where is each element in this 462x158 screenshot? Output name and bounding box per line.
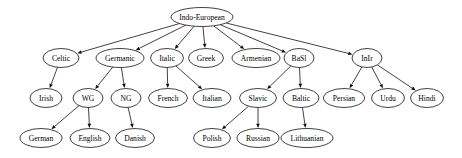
node-ellipse xyxy=(283,89,319,108)
edge-line xyxy=(214,26,241,47)
node-ellipse xyxy=(281,129,333,148)
tree-edge xyxy=(121,67,125,87)
edge-line xyxy=(121,67,123,83)
node-ellipse xyxy=(324,89,365,108)
node-layer: Indo-EuropeanCelticGermanicItalicGreekAr… xyxy=(20,8,444,148)
node-ellipse xyxy=(96,49,144,68)
tree-node-persian[interactable]: Persian xyxy=(324,89,365,108)
tree-node-ng[interactable]: NG xyxy=(111,89,141,108)
arrowhead-icon xyxy=(77,50,82,53)
edge-layer xyxy=(49,23,415,129)
tree-edge xyxy=(214,26,245,49)
tree-edge xyxy=(166,68,170,88)
tree-edge xyxy=(95,67,113,89)
edge-line xyxy=(225,106,249,126)
tree-node-russian[interactable]: Russian xyxy=(237,129,279,148)
edge-line xyxy=(176,66,199,87)
node-ellipse xyxy=(352,49,382,68)
tree-node-english[interactable]: English xyxy=(70,129,110,148)
edge-line xyxy=(177,26,194,46)
tree-edge xyxy=(377,65,415,91)
node-ellipse xyxy=(116,129,155,148)
arrowhead-icon xyxy=(256,124,260,128)
node-ellipse xyxy=(151,49,184,68)
edge-line xyxy=(88,108,89,124)
arrowhead-icon xyxy=(411,87,415,91)
arrowhead-icon xyxy=(130,123,134,127)
tree-edge xyxy=(128,107,133,128)
tree-node-hindi[interactable]: Hindi xyxy=(411,89,444,108)
node-ellipse xyxy=(171,8,233,27)
tree-edge xyxy=(203,27,207,48)
tree-node-german[interactable]: German xyxy=(20,129,62,148)
tree-edge xyxy=(87,108,91,128)
tree-node-baltic[interactable]: Baltic xyxy=(283,89,319,108)
edge-line xyxy=(51,67,57,84)
edge-line xyxy=(203,27,205,44)
node-ellipse xyxy=(111,89,141,108)
tree-node-wg[interactable]: WG xyxy=(73,89,103,108)
tree-node-indo-european[interactable]: Indo-European xyxy=(171,8,233,27)
tree-node-italic[interactable]: Italic xyxy=(151,49,184,68)
tree-node-armenian[interactable]: Armenian xyxy=(232,49,280,68)
tree-node-greek[interactable]: Greek xyxy=(189,49,224,68)
node-ellipse xyxy=(73,89,103,108)
node-ellipse xyxy=(237,129,279,148)
edge-line xyxy=(128,107,132,123)
node-ellipse xyxy=(193,89,231,108)
graph-canvas: Indo-EuropeanCelticGermanicItalicGreekAr… xyxy=(0,0,462,158)
tree-node-lithuanian[interactable]: Lithuanian xyxy=(281,129,333,148)
node-ellipse xyxy=(240,89,277,108)
edge-line xyxy=(270,66,291,86)
tree-edge xyxy=(350,67,362,88)
tree-edge xyxy=(222,106,249,129)
arrowhead-icon xyxy=(240,45,244,49)
tree-node-slavic[interactable]: Slavic xyxy=(240,89,277,108)
tree-node-italian[interactable]: Italian xyxy=(193,89,231,108)
edge-line xyxy=(302,107,304,123)
edge-line xyxy=(55,106,79,127)
arrowhead-icon xyxy=(298,84,302,88)
node-ellipse xyxy=(149,89,188,108)
arrowhead-icon xyxy=(203,44,207,48)
edge-line xyxy=(81,24,179,53)
tree-edge xyxy=(267,66,291,89)
tree-edge xyxy=(176,66,202,89)
tree-edge xyxy=(298,68,302,88)
tree-edge xyxy=(49,67,57,88)
node-ellipse xyxy=(232,49,280,68)
arrowhead-icon xyxy=(166,84,170,88)
node-ellipse xyxy=(20,129,62,148)
edge-line xyxy=(372,67,381,85)
arrowhead-icon xyxy=(87,124,91,128)
tree-node-polish[interactable]: Polish xyxy=(194,129,231,148)
tree-node-celtic[interactable]: Celtic xyxy=(43,49,79,68)
edge-line xyxy=(299,68,300,84)
tree-edge xyxy=(302,107,306,127)
tree-node-danish[interactable]: Danish xyxy=(116,129,155,148)
node-ellipse xyxy=(30,89,62,108)
tree-node-french[interactable]: French xyxy=(149,89,188,108)
tree-node-irish[interactable]: Irish xyxy=(30,89,62,108)
node-ellipse xyxy=(189,49,224,68)
arrowhead-icon xyxy=(122,84,126,88)
language-family-tree-diagram: Indo-EuropeanCelticGermanicItalicGreekAr… xyxy=(0,0,462,158)
arrowhead-icon xyxy=(49,84,52,89)
edge-line xyxy=(226,23,348,53)
node-ellipse xyxy=(70,129,110,148)
tree-node-basl[interactable]: BaSl xyxy=(284,49,314,68)
node-ellipse xyxy=(284,49,314,68)
node-ellipse xyxy=(43,49,79,68)
tree-node-urdu[interactable]: Urdu xyxy=(372,89,405,108)
node-ellipse xyxy=(372,89,405,108)
tree-node-germanic[interactable]: Germanic xyxy=(96,49,144,68)
tree-edge xyxy=(372,67,383,88)
tree-edge xyxy=(51,106,79,130)
tree-edge xyxy=(256,108,260,128)
tree-node-inir[interactable]: InIr xyxy=(352,49,382,68)
edge-line xyxy=(352,67,362,85)
edge-line xyxy=(98,67,113,86)
node-ellipse xyxy=(411,89,444,108)
arrowhead-icon xyxy=(348,52,353,56)
arrowhead-icon xyxy=(303,124,307,128)
